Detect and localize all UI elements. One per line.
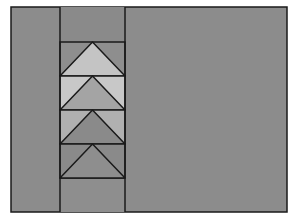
flying-geese-column — [60, 42, 125, 178]
quilt-block-diagram — [0, 0, 291, 219]
goose-unit-3 — [60, 110, 125, 144]
goose-unit-2 — [60, 76, 125, 110]
goose-unit-1 — [60, 42, 125, 76]
goose-unit-4 — [60, 144, 125, 178]
block-background — [11, 7, 287, 212]
column-bottom-filler — [60, 178, 125, 212]
column-top-filler — [60, 7, 125, 42]
